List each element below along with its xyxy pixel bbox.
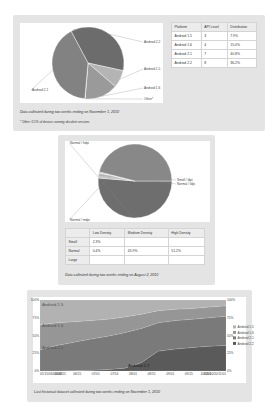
distribution-cell: 40.8%: [227, 50, 256, 59]
api-level-cell: 3: [201, 32, 227, 41]
legend-label-android-1-6: Android 1.6: [238, 331, 255, 335]
header-low-density: Low Density: [90, 229, 125, 238]
api-level-cell: 8: [201, 59, 227, 68]
platform-footnote: * Other: 0.1% of devices running obsolet…: [20, 120, 89, 124]
table-row: Android 1.6 4 15.0%: [172, 41, 257, 50]
y-tick-label-left: 25%: [33, 351, 40, 355]
header-platform: Platform: [172, 23, 202, 32]
low-density-cell: 2.3%: [90, 238, 125, 247]
x-tick-label: 07/14: [110, 372, 118, 376]
pie-label-normal-hdpi: Normal / hdpi: [70, 141, 89, 145]
legend-label-android-2-2: Android 2.2: [238, 342, 255, 346]
high-density-cell: [168, 256, 204, 265]
historical-chart-area: Android 1.5Android 1.6Android 2.1Android…: [33, 297, 246, 383]
y-tick-label-right: 100%: [227, 298, 235, 302]
platform-cell: Android 1.5: [172, 32, 202, 41]
x-tick-label: 09/15: [185, 372, 193, 376]
platform-table: Platform API Level Distribution Android …: [171, 22, 257, 68]
y-tick-label-right: 75%: [227, 316, 234, 320]
distribution-cell: 7.9%: [227, 32, 256, 41]
pie-label-normal-mdpi: Normal / mdpi: [70, 218, 90, 222]
header-high-density: High Density: [168, 229, 204, 238]
high-density-cell: 51.2%: [168, 247, 204, 256]
table-row: Small 2.3%: [66, 238, 205, 247]
platform-caption: Data collected during two weeks ending o…: [20, 110, 119, 114]
x-tick-label: 06/01: [55, 372, 63, 376]
pie-label-normal-ldpi: Normal / ldpi: [177, 182, 195, 186]
platform-cell: Android 1.6: [172, 41, 202, 50]
area-label-android-1-6: Android 1.6: [42, 323, 64, 328]
pie-label-android-2-2: Android 2.2: [144, 40, 161, 44]
header-api-level: API Level: [201, 23, 227, 32]
area-label-android-2-1: Android 2.1: [42, 345, 64, 350]
y-tick-label-left: 0%: [34, 369, 39, 373]
platform-pie-chart: Android 2.2Android 1.5Android 1.6Other*A…: [20, 23, 163, 103]
table-row: Android 2.1 7 40.8%: [172, 50, 257, 59]
screen-pie-chart: Normal / hdpiSmall / ldpiNormal / ldpiNo…: [65, 141, 210, 222]
legend-swatch-android-1-5: [233, 325, 236, 328]
legend-swatch-android-2-2: [233, 342, 236, 345]
low-density-cell: [90, 256, 125, 265]
platform-cell: Android 2.1: [172, 50, 202, 59]
distribution-cell: 36.2%: [227, 59, 256, 68]
row-header-normal: Normal: [66, 247, 90, 256]
api-level-cell: 4: [201, 41, 227, 50]
high-density-cell: [168, 238, 204, 247]
row-header-small: Small: [66, 238, 90, 247]
y-tick-label-right: 25%: [227, 351, 234, 355]
legend-swatch-android-2-1: [233, 336, 236, 339]
x-tick-label: 10/15/10/20/11/01: [201, 372, 227, 376]
x-tick-label: 09/01: [166, 372, 174, 376]
api-level-cell: 7: [201, 50, 227, 59]
historical-caption: Last historical dataset collected during…: [34, 390, 160, 394]
platform-cell: Android 2.2: [172, 59, 202, 68]
low-density-cell: 0.4%: [90, 247, 125, 256]
legend-swatch-android-1-6: [233, 331, 236, 334]
x-tick-label: 06/15: [73, 372, 81, 376]
area-label-android-1-5: Android 1.5: [42, 302, 64, 307]
medium-density-cell: 45.9%: [125, 247, 168, 256]
x-tick-label: 08/15: [148, 372, 156, 376]
header-distribution: Distribution: [227, 23, 256, 32]
pie-leader-line: [120, 69, 143, 79]
historical-area-chart: Android 1.5Android 1.6Android 2.1Android…: [33, 297, 246, 383]
screen-pie-chart-area: Normal / hdpiSmall / ldpiNormal / ldpiNo…: [65, 141, 210, 222]
area-label-android-2-2: Android 2.2: [128, 363, 150, 368]
pie-label-other: Other*: [144, 97, 154, 101]
legend-label-android-1-5: Android 1.5: [238, 325, 255, 329]
medium-density-cell: [125, 238, 168, 247]
y-tick-label-left: 50%: [33, 334, 40, 338]
pie-slice-normal-hdpi: [98, 178, 172, 218]
pie-label-android-2-1: Android 2.1: [32, 88, 49, 92]
x-tick-label: 07/01: [92, 372, 100, 376]
screen-caption: Data collected during two weeks ending o…: [65, 273, 158, 277]
distribution-cell: 15.0%: [227, 41, 256, 50]
platform-pie-chart-area: Android 2.2Android 1.5Android 1.6Other*A…: [20, 23, 163, 103]
table-row: Android 1.5 3 7.9%: [172, 32, 257, 41]
y-tick-label-left: 100%: [31, 298, 39, 302]
header-blank: [66, 229, 90, 238]
x-tick-label: 08/01: [129, 372, 137, 376]
screen-density-table: Low Density Medium Density High Density …: [65, 228, 205, 265]
y-tick-label-right: 50%: [227, 334, 234, 338]
table-row: Android 2.2 8 36.2%: [172, 59, 257, 68]
header-medium-density: Medium Density: [125, 229, 168, 238]
table-row: Large: [66, 256, 205, 265]
legend-label-android-2-1: Android 2.1: [238, 336, 255, 340]
row-header-large: Large: [66, 256, 90, 265]
y-tick-label-right: 0%: [227, 369, 232, 373]
table-row: Normal 0.4% 45.9% 51.2%: [66, 247, 205, 256]
pie-label-android-1-5: Android 1.5: [144, 67, 161, 71]
y-tick-label-left: 75%: [33, 316, 40, 320]
medium-density-cell: [125, 256, 168, 265]
pie-label-android-1-6: Android 1.6: [144, 86, 161, 90]
